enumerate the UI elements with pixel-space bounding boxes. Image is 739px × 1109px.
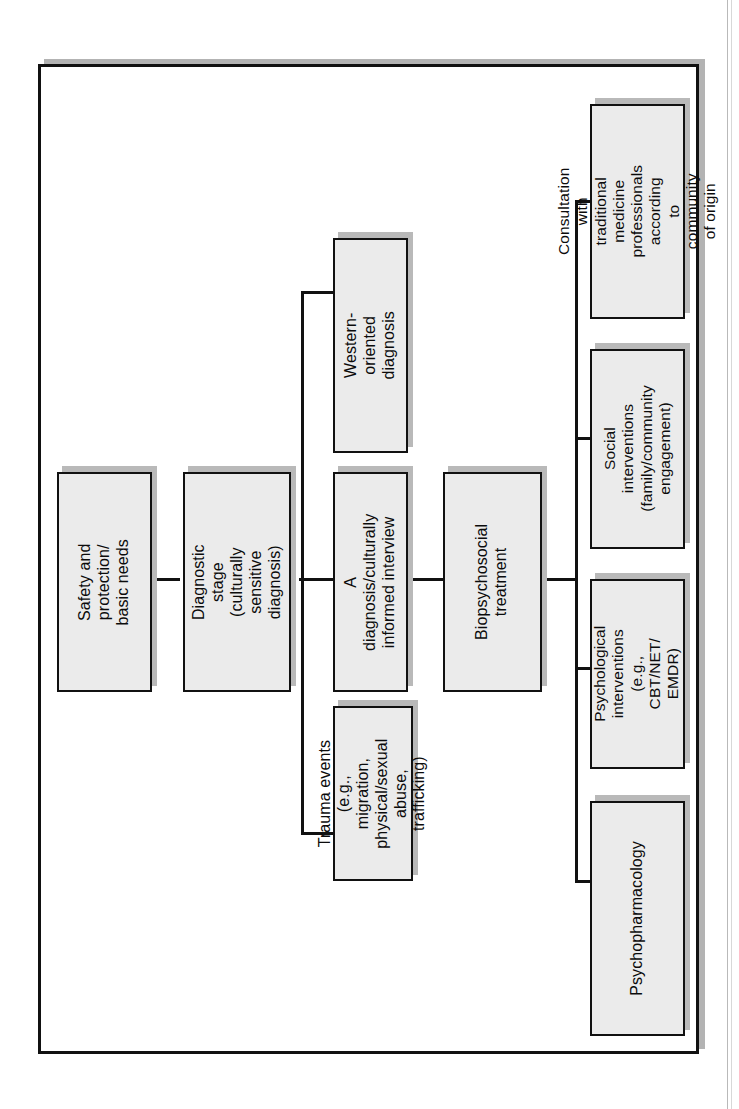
node-label-safety: Safety and protection/ basic needs (76, 537, 133, 628)
connector-interview-to-biopsychosocial (413, 578, 443, 581)
flowchart-diagram: Safety and protection/ basic needs Diagn… (0, 0, 739, 1109)
node-psychopharmacology[interactable]: Psychopharmacology (590, 801, 685, 1036)
node-label-biopsychosocial: Biopsychosocial treatment (474, 524, 512, 640)
connector-bus-to-social (575, 437, 590, 440)
node-psychological-interventions[interactable]: Psychological interventions (e.g., CBT/N… (590, 579, 685, 769)
node-consultation-traditional-medicine[interactable]: Consultation with traditional medicine p… (590, 104, 685, 319)
node-label-pharmacology: Psychopharmacology (628, 841, 647, 996)
node-trauma-events[interactable]: Trauma events (e.g., migration, physical… (333, 706, 413, 881)
node-label-interview: A diagnosis/culturally informed intervie… (342, 513, 399, 650)
connector-bus-to-psychological (575, 667, 590, 670)
node-label-social: Social interventions (family/community e… (601, 386, 674, 513)
node-label-diagnostic: Diagnostic stage (culturally sensitive d… (190, 530, 284, 634)
node-label-trauma: Trauma events (e.g., migration, physical… (316, 739, 429, 849)
node-label-psychological: Psychological interventions (e.g., CBT/N… (592, 626, 683, 722)
node-label-western: Western-oriented diagnosis (342, 310, 399, 381)
node-western-oriented-diagnosis[interactable]: Western-oriented diagnosis (333, 238, 408, 453)
node-safety-and-protection[interactable]: Safety and protection/ basic needs (57, 472, 152, 692)
node-culturally-informed-interview[interactable]: A diagnosis/culturally informed intervie… (333, 472, 408, 692)
connector-biopsychosocial-stub (542, 578, 577, 581)
connector-diagnostic-bus (301, 291, 304, 835)
connector-treatment-bus (575, 200, 578, 883)
node-social-interventions[interactable]: Social interventions (family/community e… (590, 349, 685, 549)
node-biopsychosocial-treatment[interactable]: Biopsychosocial treatment (443, 472, 542, 692)
connector-bus-to-western (301, 291, 333, 294)
connector-diagnostic-stub (299, 578, 333, 581)
connector-bus-to-pharmacology (575, 880, 590, 883)
node-diagnostic-stage[interactable]: Diagnostic stage (culturally sensitive d… (183, 472, 291, 692)
connector-safety-to-diagnostic (154, 578, 180, 581)
node-label-consultation: Consultation with traditional medicine p… (555, 165, 720, 258)
